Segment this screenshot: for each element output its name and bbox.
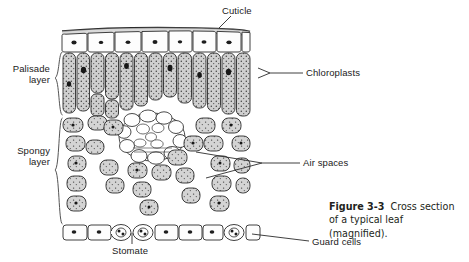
upper-epidermis (62, 31, 250, 52)
label-air-spaces: Air spaces (303, 157, 348, 168)
label-stomate: Stomate (112, 245, 148, 256)
guard-cell-pair-right (224, 225, 244, 241)
label-palisade-layer-line1: Palisade (0, 63, 50, 74)
palisade-brace (55, 52, 63, 115)
label-spongy-layer-line1: Spongy (0, 145, 50, 156)
figure-caption-label: Figure 3-3 (329, 201, 384, 212)
figure-canvas: Cuticle Chloroplasts Air spaces Guard ce… (0, 0, 469, 262)
cuticle-leader (219, 16, 231, 28)
spongy-brace (55, 118, 63, 224)
figure-caption: Figure 3-3 Cross section of a typical le… (329, 200, 464, 240)
label-spongy-layer-line2: layer (0, 156, 50, 167)
lower-epidermis (63, 225, 260, 241)
layer-braces (55, 52, 63, 224)
chloroplasts-leader-fork-up (258, 68, 270, 73)
guard-cell-right (133, 225, 153, 241)
chloroplasts-leader-fork-down (258, 73, 270, 78)
palisade-mesophyll-layer (63, 53, 250, 118)
guard-cells-leader (252, 234, 309, 241)
guard-cell-left (111, 225, 131, 241)
label-chloroplasts: Chloroplasts (306, 67, 360, 78)
label-cuticle: Cuticle (222, 5, 252, 16)
label-palisade-layer-line2: layer (0, 74, 50, 85)
